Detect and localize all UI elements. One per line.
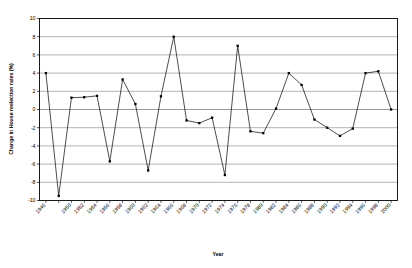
y-axis-tick-label: 8 — [33, 34, 36, 40]
data-point — [83, 96, 85, 98]
x-axis-tick-label: 1960 — [124, 202, 136, 214]
data-point — [339, 135, 341, 137]
data-point — [326, 127, 328, 129]
data-point — [313, 118, 315, 120]
x-axis-tick-label: 1946 — [34, 202, 46, 214]
y-axis-tick-label: 4 — [33, 70, 36, 76]
x-axis-tick-label: 1992 — [328, 202, 340, 214]
x-axis-tick-label: 1954 — [85, 202, 97, 214]
data-point — [198, 122, 200, 124]
gridlines — [40, 37, 398, 183]
x-axis-tick-label: 1962 — [136, 202, 148, 214]
y-axis-tick-label: 10 — [30, 15, 36, 21]
data-point — [173, 36, 175, 38]
x-axis-tick-label: 1986 — [290, 202, 302, 214]
x-axis-tick-label: 1950 — [60, 202, 72, 214]
data-point — [300, 84, 302, 86]
data-point — [249, 130, 251, 132]
data-point — [364, 72, 366, 74]
data-point — [134, 103, 136, 105]
line-chart: 1086420-2-4-6-8-10 194619501952195419561… — [0, 0, 412, 268]
x-axis-tick-label: 1994 — [341, 202, 353, 214]
data-point — [390, 108, 392, 110]
x-axis-tick-label: 1998 — [367, 202, 379, 214]
x-axis-tick-labels: 1946195019521954195619581960196219641966… — [34, 202, 392, 214]
data-point — [58, 195, 60, 197]
data-point — [288, 72, 290, 74]
data-point — [96, 95, 98, 97]
data-point — [147, 169, 149, 171]
x-axis-tick-label: 1968 — [175, 202, 187, 214]
data-point — [45, 72, 47, 74]
y-axis-tick-label: -4 — [31, 143, 36, 149]
x-axis-tick-label: 1980 — [252, 202, 264, 214]
data-point — [121, 78, 123, 80]
x-axis-tick-label: 1972 — [200, 202, 212, 214]
x-axis-tick-label: 1964 — [149, 202, 161, 214]
data-point — [211, 117, 213, 119]
y-axis-tick-label: -8 — [31, 179, 36, 185]
data-point — [109, 160, 111, 162]
y-axis-title: Change in House reelection rates (%) — [8, 63, 14, 155]
chart-container: 1086420-2-4-6-8-10 194619501952195419561… — [0, 0, 412, 268]
x-axis-tick-label: 1970 — [188, 202, 200, 214]
data-point — [377, 70, 379, 72]
data-point — [262, 132, 264, 134]
data-point — [275, 107, 277, 109]
x-axis-tick-label: 1982 — [264, 202, 276, 214]
x-axis-tick-label: 1996 — [354, 202, 366, 214]
x-axis-tick-label: 1966 — [162, 202, 174, 214]
x-axis-tick-label: 1956 — [98, 202, 110, 214]
data-point — [70, 97, 72, 99]
data-series-line — [46, 37, 391, 196]
y-axis-tick-label: -10 — [28, 197, 36, 203]
x-axis-tick-label: 1974 — [213, 202, 225, 214]
y-axis-tick-label: 6 — [33, 52, 36, 58]
x-axis-tick-label: 1988 — [303, 202, 315, 214]
y-axis-tick-label: -2 — [31, 125, 36, 131]
x-axis-tick-label: 1978 — [239, 202, 251, 214]
data-point — [224, 174, 226, 176]
data-point — [160, 95, 162, 97]
y-axis-tick-label: -6 — [31, 161, 36, 167]
x-axis-tick-label: 1976 — [226, 202, 238, 214]
data-point — [352, 127, 354, 129]
x-axis-tick-label: 2000 — [379, 202, 391, 214]
y-axis-tick-label: 0 — [33, 106, 36, 112]
x-axis-tick-label: 1958 — [111, 202, 123, 214]
data-point-markers — [45, 36, 393, 198]
x-axis-tick-label: 1984 — [277, 202, 289, 214]
x-axis-tick-label: 1990 — [315, 202, 327, 214]
y-axis-tick-labels: 1086420-2-4-6-8-10 — [28, 15, 36, 203]
y-axis-tick-label: 2 — [33, 88, 36, 94]
x-axis-tick-label: 1952 — [73, 202, 85, 214]
data-point — [237, 45, 239, 47]
data-point — [185, 119, 187, 121]
x-axis-title: Year — [213, 251, 224, 257]
